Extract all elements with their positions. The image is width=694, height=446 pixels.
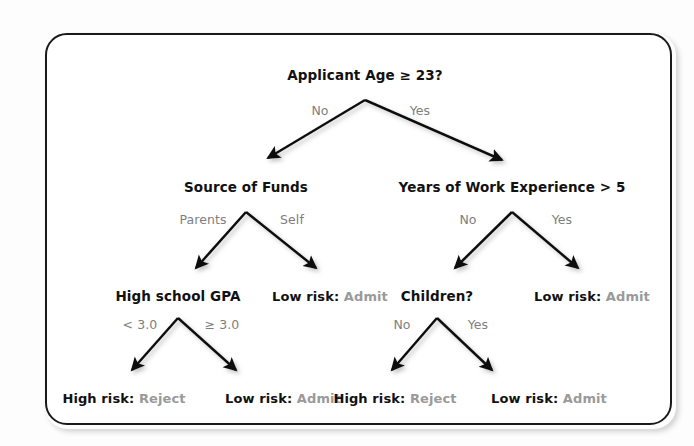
leaf-node-leaf-kids-yes: Low risk: Admit [491, 391, 607, 406]
edge-label-e-gpa-high: ≥ 3.0 [205, 317, 240, 332]
decision-node-root: Applicant Age ≥ 23? [287, 67, 442, 83]
leaf-node-leaf-gpa-high: Low risk: Admit [225, 391, 341, 406]
decision-node-children: Children? [401, 288, 474, 304]
edge-label-e-work-no: No [459, 212, 476, 227]
leaf-action-value: Admit [606, 289, 650, 304]
leaf-risk-label: High risk: [62, 391, 134, 406]
decision-tree-diagram: Applicant Age ≥ 23?Source of FundsYears … [0, 0, 694, 446]
edge-label-e-gpa-low: < 3.0 [123, 317, 158, 332]
leaf-risk-label: Low risk: [534, 289, 601, 304]
decision-node-work: Years of Work Experience > 5 [399, 179, 626, 195]
edge-label-e-funds-self: Self [280, 212, 304, 227]
leaf-node-leaf-gpa-low: High risk: Reject [62, 391, 185, 406]
decision-node-gpa: High school GPA [115, 288, 240, 304]
leaf-risk-label: Low risk: [225, 391, 292, 406]
edge-label-e-root-yes: Yes [410, 103, 430, 118]
leaf-action-value: Admit [563, 391, 607, 406]
edge-label-e-funds-par: Parents [179, 212, 226, 227]
leaf-node-leaf-self: Low risk: Admit [272, 289, 388, 304]
leaf-risk-label: Low risk: [491, 391, 558, 406]
leaf-node-leaf-work-yes: Low risk: Admit [534, 289, 650, 304]
leaf-risk-label: High risk: [333, 391, 405, 406]
edge-label-e-kids-yes: Yes [468, 317, 488, 332]
edge-label-e-work-yes: Yes [552, 212, 572, 227]
leaf-action-value: Reject [410, 391, 457, 406]
edge-label-e-kids-no: No [393, 317, 410, 332]
leaf-action-value: Admit [344, 289, 388, 304]
leaf-risk-label: Low risk: [272, 289, 339, 304]
leaf-node-leaf-kids-no: High risk: Reject [333, 391, 456, 406]
decision-node-funds: Source of Funds [184, 179, 308, 195]
leaf-action-value: Reject [139, 391, 186, 406]
edge-label-e-root-no: No [311, 103, 328, 118]
diagram-frame [45, 33, 672, 425]
